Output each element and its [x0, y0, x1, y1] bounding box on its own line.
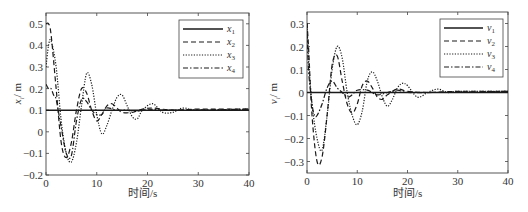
- y-tick-label: −0.1: [284, 110, 304, 122]
- x-tick-label: 30: [452, 175, 464, 187]
- x-axis-label: 时间/s: [393, 184, 422, 200]
- y-axis-label: vi/ m: [267, 83, 282, 104]
- y-tick-label: 0: [38, 126, 44, 138]
- legend: x1x2x3x4: [179, 20, 243, 78]
- y-tick-label: −0.3: [284, 156, 304, 168]
- legend: v1v2v3v4: [440, 19, 503, 77]
- y-label-main: v: [267, 99, 279, 104]
- y-label-unit: / m: [11, 83, 23, 97]
- plot-area-velocity: 010203040−0.3−0.2−0.100.10.20.3v1v2v3v4: [264, 0, 528, 212]
- y-axis-label: xi/ m: [11, 83, 26, 104]
- y-tick-label: 0.1: [290, 64, 304, 76]
- x-tick-label: 10: [91, 177, 103, 189]
- y-tick-label: −0.2: [23, 169, 43, 181]
- x-tick-label: 40: [244, 177, 256, 189]
- chart-right-velocity: 010203040−0.3−0.2−0.100.10.20.3v1v2v3v4 …: [264, 0, 528, 212]
- y-tick-label: −0.2: [284, 133, 304, 145]
- y-tick-label: 0: [299, 87, 305, 99]
- y-tick-label: 0.2: [290, 41, 304, 53]
- y-tick-label: 0.5: [29, 18, 43, 30]
- x-tick-label: 40: [503, 175, 515, 187]
- chart-left-position: 010203040−0.2−0.100.10.20.30.40.5x1x2x3x…: [0, 0, 264, 212]
- x-tick-label: 30: [193, 177, 205, 189]
- y-label-main: x: [11, 99, 23, 104]
- y-label-sub: i: [18, 97, 26, 99]
- y-label-sub: i: [274, 97, 282, 99]
- x-tick-label: 0: [43, 177, 49, 189]
- series-x4: [46, 84, 249, 158]
- y-tick-label: 0.3: [29, 61, 43, 73]
- x-axis-label: 时间/s: [128, 184, 157, 200]
- x-tick-label: 0: [304, 175, 310, 187]
- x-tick-label: 10: [352, 175, 364, 187]
- y-tick-label: 0.3: [290, 18, 304, 30]
- y-tick-label: 0.2: [29, 83, 43, 95]
- y-tick-label: −0.1: [23, 147, 43, 159]
- y-tick-label: 0.4: [29, 39, 43, 51]
- y-label-unit: / m: [267, 83, 279, 97]
- plot-area-position: 010203040−0.2−0.100.10.20.30.40.5x1x2x3x…: [0, 0, 264, 212]
- y-tick-label: 0.1: [29, 104, 43, 116]
